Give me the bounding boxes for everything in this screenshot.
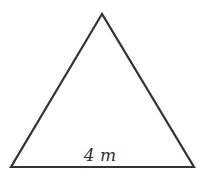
triangle-diagram: 4 m [0,0,203,176]
base-length-label: 4 m [83,145,116,165]
